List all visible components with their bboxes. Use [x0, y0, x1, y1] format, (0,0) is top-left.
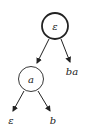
node-a-label: a	[28, 74, 34, 85]
tree-diagram: ε a ba ε b	[0, 0, 87, 134]
leaf-ba-label: ba	[66, 66, 78, 77]
node-root-label: ε	[52, 21, 57, 32]
node-root: ε	[42, 13, 68, 39]
edge-a-to-eps	[13, 91, 24, 111]
edge-root-to-a	[37, 39, 49, 63]
node-a: a	[19, 67, 44, 92]
leaf-epsilon-label: ε	[8, 115, 13, 126]
leaf-b-label: b	[50, 115, 56, 126]
edge-a-to-b	[38, 91, 50, 111]
edge-root-to-ba	[61, 39, 70, 62]
